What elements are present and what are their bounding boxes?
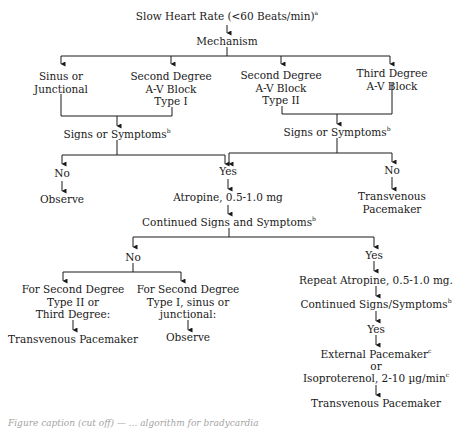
outcome-observe-2: Observe [166,331,210,344]
label-line: Third Degree: [22,308,125,321]
yes-2: Yes [367,323,385,336]
footnote-b: b [448,297,452,304]
outcome-observe: Observe [40,193,84,206]
atropine-node: Atropine, 0.5-1.0 mg [173,191,283,204]
figure-caption-cropped: Figure caption (cut off) — ... algorithm… [8,418,259,428]
condition-type2-third-degree: For Second Degree Type II or Third Degre… [22,283,125,321]
condition-type1-sinus-junctional: For Second Degree Type I, sinus or junct… [137,283,240,321]
continued-no: No [125,251,141,264]
signs-label: Signs or Symptoms [64,128,167,140]
external-pacemaker: External Pacemakerc [321,348,432,361]
label-line: junctional: [137,308,240,321]
label-line: A-V Block [240,82,321,95]
yes-node: Yes [219,165,237,178]
isoproterenol-label: Isoproterenol, 2-10 µg/min [303,372,446,384]
mechanism-sinus-junctional: Sinus or Junctional [34,70,88,95]
label-line: A-V Block [130,83,211,96]
label-line: Transvenous [358,190,426,203]
label-line: Type I [130,95,211,108]
signs-label: Signs or Symptoms [284,126,387,138]
label-line: Type I, sinus or [137,296,240,309]
root-label: Slow Heart Rate (<60 Beats/min) [136,10,315,22]
label-line: Second Degree [240,69,321,82]
footnote-b: b [167,127,171,134]
continued-signs-2: Continued Signs/Symptomsb [301,298,452,311]
isoproterenol: Isoproterenol, 2-10 µg/minc [303,372,449,385]
root-node-slow-heart-rate: Slow Heart Rate (<60 Beats/min)a [136,10,318,23]
footnote-c: c [428,347,431,354]
final-transvenous-pacemaker: Transvenous Pacemaker [311,397,441,410]
outcome-transvenous-pacemaker: Transvenous Pacemaker [358,190,426,215]
mechanism-second-degree-type-2: Second Degree A-V Block Type II [240,69,321,107]
label-line: For Second Degree [137,283,240,296]
label-line: A-V Block [356,80,427,93]
continued-signs-node: Continued Signs and Symptomsb [142,216,316,229]
continued-label: Continued Signs and Symptoms [142,216,312,228]
mechanism-node: Mechanism [196,35,257,48]
mechanism-second-degree-type-1: Second Degree A-V Block Type I [130,70,211,108]
repeat-atropine: Repeat Atropine, 0.5-1.0 mg. [299,274,453,287]
or-label: or [370,360,381,373]
label-line: Third Degree [356,67,427,80]
outcome-transvenous-pacemaker-2: Transvenous Pacemaker [8,333,138,346]
label-line: Junctional [34,83,88,96]
footnote-a: a [315,9,319,16]
footnote-b: b [387,125,391,132]
label-line: Sinus or [34,70,88,83]
external-label: External Pacemaker [321,348,429,360]
label-line: For Second Degree [22,283,125,296]
label-line: Type II or [22,296,125,309]
signs-symptoms-right: Signs or Symptomsb [284,126,391,139]
label-line: Pacemaker [358,203,426,216]
footnote-c: c [446,371,449,378]
mechanism-third-degree: Third Degree A-V Block [356,67,427,92]
footnote-b: b [312,215,316,222]
right-no: No [384,164,400,177]
label-line: Type II [240,94,321,107]
left-no: No [54,167,70,180]
label-line: Second Degree [130,70,211,83]
continued2-label: Continued Signs/Symptoms [301,298,448,310]
signs-symptoms-left: Signs or Symptomsb [64,128,171,141]
continued-yes: Yes [365,249,383,262]
